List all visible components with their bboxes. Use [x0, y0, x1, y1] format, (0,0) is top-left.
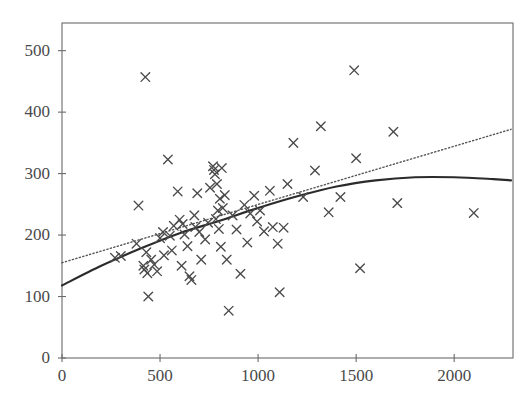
x-tick-label: 2000 — [414, 366, 494, 386]
y-tick-label: 100 — [0, 287, 50, 307]
x-tick-label: 0 — [22, 366, 102, 386]
y-tick-label: 200 — [0, 225, 50, 245]
y-tick-label: 400 — [0, 102, 50, 122]
y-tick-label: 500 — [0, 41, 50, 61]
data-point-markers — [111, 66, 478, 315]
x-tick-label: 1000 — [218, 366, 298, 386]
scatter-plot-canvas — [0, 0, 532, 414]
chart-figure: 0100200300400500 0500100015002000 — [0, 0, 532, 414]
y-tick-label: 0 — [0, 348, 50, 368]
x-tick-label: 500 — [120, 366, 200, 386]
y-tick-label: 300 — [0, 164, 50, 184]
x-tick-label: 1500 — [316, 366, 396, 386]
linear-trend-line — [62, 129, 511, 262]
plot-frame — [62, 23, 513, 358]
